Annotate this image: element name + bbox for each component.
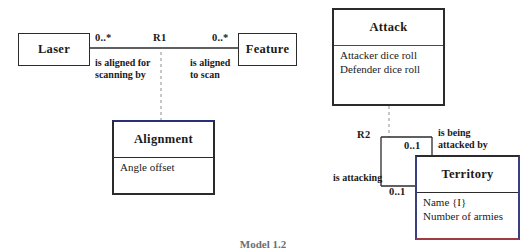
class-attributes-territory: Name {I} Number of armies	[417, 193, 518, 238]
class-box-feature[interactable]: Feature	[238, 33, 297, 66]
multiplicity-feature-end: 0..*	[212, 32, 229, 44]
class-header-territory: Territory	[417, 157, 518, 193]
class-box-attack[interactable]: Attack Attacker dice roll Defender dice …	[332, 8, 445, 106]
attribute-row: Number of armies	[423, 210, 518, 224]
attribute-row: Name {I}	[423, 196, 518, 210]
diagram-caption: Model 1.2	[0, 238, 526, 250]
class-box-alignment[interactable]: Alignment Angle offset	[112, 120, 215, 195]
role-laser-end-line1: is aligned for	[95, 57, 151, 69]
role-attacked-by-line1: is being	[438, 127, 471, 139]
class-name-attack: Attack	[370, 20, 408, 35]
class-box-laser[interactable]: Laser	[18, 33, 90, 66]
multiplicity-attacking-end: 0..1	[389, 186, 406, 198]
attribute-row: Angle offset	[120, 161, 213, 175]
role-feature-end-line2: to scan	[190, 69, 220, 81]
role-laser-end-line2: scanning by	[95, 69, 146, 81]
class-name-feature: Feature	[246, 42, 290, 57]
class-box-territory[interactable]: Territory Name {I} Number of armies	[415, 155, 520, 240]
class-header-alignment: Alignment	[114, 122, 213, 158]
multiplicity-attacked-by-end: 0..1	[404, 140, 421, 152]
class-name-alignment: Alignment	[134, 132, 193, 147]
relationship-id-r2: R2	[357, 129, 371, 141]
class-header-attack: Attack	[334, 10, 443, 46]
role-attacked-by-line2: attacked by	[438, 139, 488, 151]
relationship-id-r1: R1	[153, 32, 167, 44]
attribute-row: Attacker dice roll	[340, 49, 443, 63]
class-attributes-alignment: Angle offset	[114, 158, 213, 193]
role-is-attacking: is attacking	[333, 172, 382, 184]
role-feature-end-line1: is aligned	[190, 57, 230, 69]
attribute-row: Defender dice roll	[340, 63, 443, 77]
class-attributes-attack: Attacker dice roll Defender dice roll	[334, 46, 443, 104]
multiplicity-laser-end: 0..*	[95, 32, 112, 44]
class-name-territory: Territory	[441, 167, 493, 182]
class-name-laser: Laser	[38, 42, 70, 57]
